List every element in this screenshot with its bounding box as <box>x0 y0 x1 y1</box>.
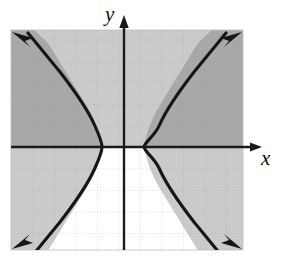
y-axis-label: y <box>105 4 114 25</box>
grid-lines <box>11 30 243 250</box>
graph-canvas <box>0 0 281 277</box>
x-axis-label: x <box>261 148 270 169</box>
y-axis-arrowhead <box>119 15 128 28</box>
hyperbola-figure: y x <box>0 0 281 277</box>
